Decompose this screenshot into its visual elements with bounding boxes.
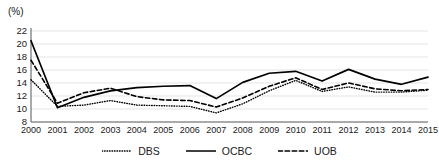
x-axis-tick-label: 2013 [365, 125, 385, 135]
y-axis-tick-label: 12 [16, 90, 27, 101]
chart-legend: DBSOCBCUOB [0, 140, 439, 162]
legend-swatch-dotted [102, 146, 132, 156]
x-axis-ticks: 2000200120022003200420052006200720082009… [21, 125, 438, 135]
x-axis-tick-label: 2000 [21, 125, 41, 135]
x-axis-tick-label: 2001 [47, 125, 67, 135]
x-axis-tick-label: 2002 [74, 125, 94, 135]
series-line-ocbc [31, 41, 428, 108]
x-axis-tick-label: 2009 [259, 125, 279, 135]
y-axis-tick-label: 22 [16, 25, 27, 36]
legend-swatch-dashed [278, 146, 308, 156]
legend-item-label: UOB [314, 146, 337, 157]
plot-area: 810121416182022 200020012002200320042005… [0, 0, 439, 140]
legend-swatch-solid [186, 146, 216, 156]
y-axis-tick-label: 16 [16, 64, 27, 75]
x-axis-tick-label: 2004 [127, 125, 147, 135]
x-axis-tick-label: 2003 [100, 125, 120, 135]
y-axis-tick-label: 14 [16, 77, 27, 88]
x-axis-tick-label: 2011 [312, 125, 331, 135]
y-axis-tick-label: 20 [16, 38, 27, 49]
legend-item-ocbc[interactable]: OCBC [186, 146, 252, 157]
gridlines [31, 31, 428, 109]
series-line-uob [31, 60, 428, 107]
legend-item-label: OCBC [222, 146, 252, 157]
legend-item-uob[interactable]: UOB [278, 146, 337, 157]
data-series-group [31, 41, 428, 113]
x-axis-tick-label: 2008 [233, 125, 253, 135]
line-chart: (%) 810121416182022 20002001200220032004… [0, 0, 439, 164]
x-axis-tick-label: 2014 [392, 125, 412, 135]
legend-item-dbs[interactable]: DBS [102, 146, 160, 157]
legend-item-label: DBS [138, 146, 160, 157]
y-axis-tick-label: 10 [16, 103, 27, 114]
x-axis-tick-label: 2006 [180, 125, 200, 135]
x-axis-tick-label: 2007 [206, 125, 226, 135]
x-axis-tick-label: 2015 [418, 125, 438, 135]
x-axis-tick-label: 2005 [153, 125, 173, 135]
x-axis-tick-label: 2012 [339, 125, 359, 135]
x-axis-tick-label: 2010 [286, 125, 306, 135]
y-axis-tick-label: 18 [16, 51, 27, 62]
y-axis-ticks: 810121416182022 [16, 25, 27, 127]
